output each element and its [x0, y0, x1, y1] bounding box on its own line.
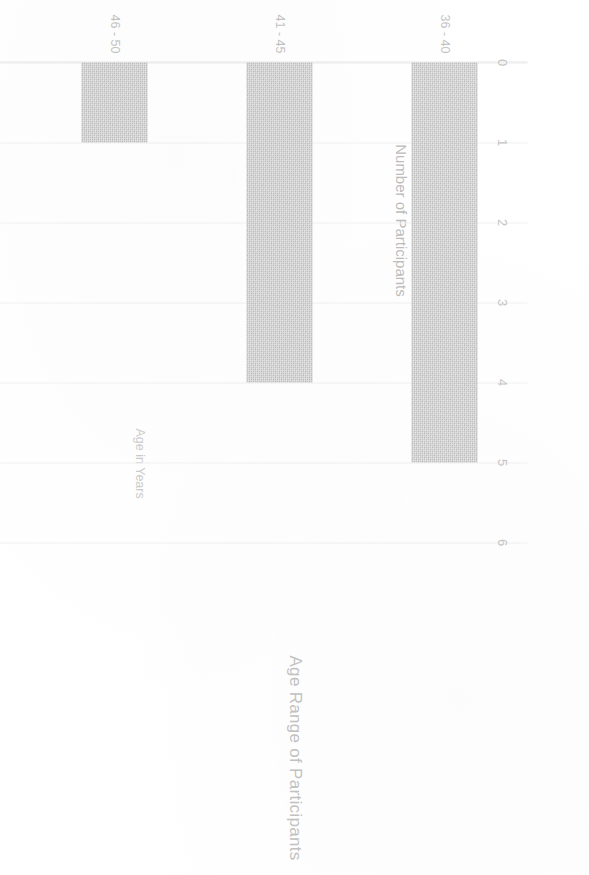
value-tick-label: 4 [493, 365, 511, 399]
bar[interactable] [246, 62, 312, 382]
category-tick-label: 46 - 50 [105, 0, 123, 62]
plot-area: 0123456 36 - 4041 - 4546 - 5051 - 5556 -… [0, 62, 477, 543]
bar[interactable] [81, 62, 147, 142]
value-tick-label: 2 [493, 205, 511, 239]
category-tick-label: 36 - 40 [435, 0, 453, 62]
value-tick-label: 6 [493, 525, 511, 559]
bar-row [81, 62, 147, 543]
category-tick-label: 41 - 45 [270, 0, 288, 62]
value-tick-label: 1 [493, 125, 511, 159]
scanned-page: Age Range of Participants Number of Part… [0, 0, 589, 875]
rotated-chart-wrapper: Age Range of Participants Number of Part… [0, 0, 589, 875]
chart-title: Age Range of Participants [0, 640, 589, 875]
bar-row [246, 62, 312, 543]
value-tick-label: 3 [493, 285, 511, 319]
value-tick-label: 0 [493, 45, 511, 79]
bar-row [411, 62, 477, 543]
bar-chart: Age Range of Participants Number of Part… [0, 0, 589, 875]
value-tick-label: 5 [493, 445, 511, 479]
bar[interactable] [411, 62, 477, 462]
